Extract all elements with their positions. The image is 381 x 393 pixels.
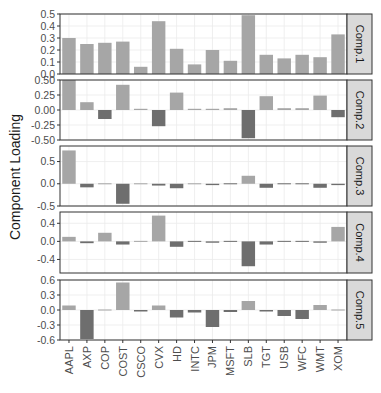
y-tick-label: 0.0: [40, 235, 55, 247]
y-tick-label: -0.6: [37, 334, 55, 346]
bar-msft: [224, 183, 237, 184]
facet-panel-5: 0.60.30.0-0.3-0.6Comp.5: [37, 274, 372, 346]
bar-aapl: [62, 306, 75, 311]
bar-slb: [242, 241, 255, 266]
bar-hd: [170, 184, 183, 188]
bar-jpm: [206, 310, 219, 327]
bar-hd: [170, 310, 183, 318]
y-tick-label: -0.5: [37, 200, 55, 212]
facet-panel-1: 0.50.40.30.20.10.0Comp.1: [40, 8, 372, 80]
y-tick-label: 0.4: [40, 20, 55, 32]
bar-slb: [242, 15, 255, 74]
y-tick-label: 0.00: [35, 104, 56, 116]
x-tick-label: CVX: [153, 345, 165, 368]
bar-cop: [98, 43, 111, 74]
bar-wfc: [295, 183, 308, 184]
bar-cop: [98, 110, 111, 119]
bar-cvx: [152, 306, 165, 311]
bar-jpm: [206, 50, 219, 74]
bar-aapl: [62, 38, 75, 74]
bar-intc: [188, 310, 201, 313]
bar-wfc: [295, 241, 308, 242]
bar-usb: [277, 310, 290, 316]
bar-cvx: [152, 21, 165, 74]
bar-wfc: [295, 310, 308, 319]
bar-cost: [116, 42, 129, 74]
x-tick-label: COP: [99, 346, 111, 370]
bar-cost: [116, 241, 129, 244]
x-tick-label: WMT: [314, 346, 326, 373]
x-axis: AAPLAXPCOPCOSTCSCOCVXHDINTCJPMMSFTSLBTGT…: [63, 340, 344, 378]
bar-csco: [134, 241, 147, 242]
bar-axp: [80, 241, 93, 243]
x-tick-label: SLB: [242, 346, 254, 367]
bar-wfc: [295, 55, 308, 74]
bar-jpm: [206, 109, 219, 110]
bar-intc: [188, 64, 201, 74]
y-tick-label: 0.0: [40, 304, 55, 316]
bar-cvx: [152, 216, 165, 242]
bar-aapl: [62, 80, 75, 110]
y-tick-label: 0.1: [40, 56, 55, 68]
bar-wmt: [313, 184, 326, 188]
x-tick-label: XOM: [332, 346, 344, 371]
bar-hd: [170, 49, 183, 74]
bar-usb: [277, 58, 290, 74]
x-tick-label: USB: [278, 346, 290, 369]
bar-intc: [188, 109, 201, 110]
x-tick-label: CSCO: [135, 346, 147, 378]
bar-msft: [224, 241, 237, 242]
y-tick-label: -0.50: [31, 134, 55, 146]
bar-cost: [116, 184, 129, 204]
bar-usb: [277, 241, 290, 242]
bar-cvx: [152, 110, 165, 126]
bar-intc: [188, 183, 201, 184]
x-tick-label: INTC: [189, 346, 201, 372]
bar-axp: [80, 102, 93, 110]
bar-xom: [331, 184, 344, 185]
faceted-bar-chart: Component Loading 0.50.40.30.20.10.0Comp…: [0, 0, 381, 393]
bar-axp: [80, 310, 93, 339]
bar-tgt: [260, 184, 273, 188]
bar-msft: [224, 310, 237, 312]
bar-csco: [134, 109, 147, 110]
bar-slb: [242, 176, 255, 184]
bar-tgt: [260, 241, 273, 244]
bar-aapl: [62, 237, 75, 242]
facet-strip-label: Comp.4: [354, 223, 366, 262]
bar-hd: [170, 241, 183, 246]
facet-strip-label: Comp.1: [354, 25, 366, 64]
bar-tgt: [260, 96, 273, 110]
bar-jpm: [206, 184, 219, 185]
y-tick-label: 0.5: [40, 155, 55, 167]
x-tick-label: TGT: [260, 346, 272, 368]
y-tick-label: 0.50: [35, 74, 56, 86]
bar-csco: [134, 183, 147, 184]
bar-wmt: [313, 96, 326, 110]
bar-msft: [224, 61, 237, 74]
bar-cop: [98, 183, 111, 184]
bar-xom: [331, 34, 344, 74]
facet-panel-2: 0.500.250.00-0.25-0.50Comp.2: [31, 74, 372, 146]
x-tick-label: HD: [171, 346, 183, 362]
bar-csco: [134, 310, 147, 312]
bar-cop: [98, 233, 111, 242]
bar-csco: [134, 67, 147, 74]
bar-xom: [331, 227, 344, 241]
bar-hd: [170, 93, 183, 110]
y-tick-label: 0.5: [40, 8, 55, 20]
bar-cop: [98, 310, 111, 311]
y-tick-label: -0.3: [37, 319, 55, 331]
y-tick-label: -0.4: [37, 253, 55, 265]
bar-cost: [116, 85, 129, 110]
y-tick-label: 0.4: [40, 217, 55, 229]
bar-slb: [242, 110, 255, 138]
y-tick-label: 0.25: [35, 89, 56, 101]
bar-cvx: [152, 184, 165, 186]
y-tick-label: 0.0: [40, 177, 55, 189]
bar-xom: [331, 110, 344, 117]
facet-strip-label: Comp.5: [354, 291, 366, 330]
x-tick-label: WFC: [296, 346, 308, 371]
x-tick-label: MSFT: [224, 346, 236, 376]
facet-panel-4: 0.40.0-0.4Comp.4: [37, 212, 372, 273]
